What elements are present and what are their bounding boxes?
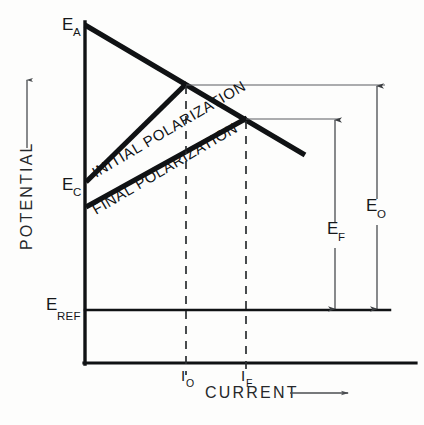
label-ea-subscript: A [73, 26, 81, 38]
label-if-base: I [241, 367, 245, 384]
label-io-subscript: O [186, 377, 194, 389]
figure-canvas: E A E C E REF I O I F E O E F INITIAL PO… [0, 0, 424, 425]
potential-labels-group: E A E C E REF [46, 15, 82, 322]
label-eo-subscript: O [377, 208, 386, 220]
label-eref-subscript: REF [57, 310, 81, 322]
label-ec-subscript: C [73, 186, 82, 198]
y-axis-label: POTENTIAL [18, 141, 35, 250]
anodic-curve [85, 25, 305, 155]
x-axis-title-group: CURRENT [205, 384, 348, 401]
y-axis-title-group: POTENTIAL [18, 80, 35, 250]
polarization-figure: E A E C E REF I O I F E O E F INITIAL PO… [0, 0, 424, 425]
label-io-base: I [181, 367, 185, 384]
label-ef-subscript: F [338, 231, 345, 243]
x-axis-label: CURRENT [205, 384, 299, 401]
